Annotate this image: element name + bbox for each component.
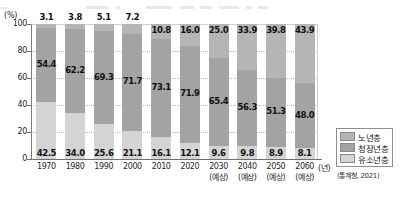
bar-2040: 33.956.39.8: [237, 24, 257, 159]
y-tick-0: 0: [3, 154, 27, 163]
bar-segment-work: 48.0: [295, 83, 315, 148]
bar-segment-old: 39.8: [266, 24, 286, 78]
bar-segment-work: 56.3: [237, 70, 257, 146]
y-tick-100: 100: [3, 19, 27, 28]
bar-value-label: 71.7: [123, 77, 142, 86]
bar-2000: 7.271.721.1: [122, 24, 142, 159]
bar-2030: 25.065.49.6: [209, 24, 229, 159]
bar-segment-old: 16.0: [180, 24, 200, 46]
legend-item-1: 청장년층: [340, 142, 388, 153]
bar-segment-young: 8.1: [295, 148, 315, 159]
bar-segment-old: 7.2: [122, 24, 142, 34]
bar-value-label: 33.9: [238, 26, 257, 35]
bar-value-label: 3.8: [68, 13, 82, 22]
bar-value-label: 21.1: [123, 149, 142, 158]
bar-value-label: 73.1: [151, 83, 170, 92]
bar-value-label: 43.9: [295, 26, 314, 35]
bar-value-label: 3.1: [39, 13, 53, 22]
bar-2050: 39.851.38.9: [266, 24, 286, 159]
source-note: (통계청, 2021): [337, 170, 379, 180]
bar-value-label: 9.8: [240, 149, 254, 158]
bar-value-label: 39.8: [266, 26, 285, 35]
stacked-bars: 3.154.442.53.862.234.05.169.325.67.271.7…: [31, 24, 318, 159]
x-label-note: (예상): [287, 173, 323, 184]
bar-value-label: 62.2: [65, 66, 84, 75]
legend-swatch-2: [340, 154, 355, 163]
bar-value-label: 16.1: [151, 149, 170, 158]
bar-value-label: 34.0: [65, 149, 84, 158]
bar-segment-young: 8.9: [266, 147, 286, 159]
bar-segment-work: 71.9: [180, 46, 200, 143]
bar-segment-young: 9.6: [209, 146, 229, 159]
bar-segment-work: 51.3: [266, 78, 286, 147]
bar-segment-work: 73.1: [151, 39, 171, 138]
legend-item-0: 노년층: [340, 131, 388, 142]
bar-segment-work: 71.7: [122, 34, 142, 131]
bar-2010: 10.873.116.1: [151, 24, 171, 159]
bar-value-label: 16.0: [180, 26, 199, 35]
bar-segment-young: 42.5: [36, 102, 56, 159]
bar-value-label: 8.9: [269, 149, 283, 158]
bar-1970: 3.154.442.5: [36, 24, 56, 159]
bar-value-label: 69.3: [94, 73, 113, 82]
bar-value-label: 56.3: [238, 103, 257, 112]
bar-segment-young: 9.8: [237, 146, 257, 159]
x-axis-unit-label: (년): [318, 162, 330, 173]
bar-segment-old: 43.9: [295, 24, 315, 83]
bar-value-label: 54.4: [37, 60, 56, 69]
y-tick-40: 40: [3, 100, 27, 109]
bar-value-label: 9.6: [212, 149, 226, 158]
y-axis-tick-labels: 100806040200: [0, 0, 27, 200]
bar-segment-young: 34.0: [65, 113, 85, 159]
x-axis-line: [27, 159, 322, 160]
legend-label-2: 유소년층: [358, 153, 388, 165]
bar-value-label: 25.0: [209, 26, 228, 35]
legend-item-2: 유소년층: [340, 153, 388, 164]
bar-segment-young: 16.1: [151, 137, 171, 159]
bar-1980: 3.862.234.0: [65, 24, 85, 159]
y-tick-60: 60: [3, 73, 27, 82]
y-tick-20: 20: [3, 127, 27, 136]
legend-swatch-0: [340, 132, 355, 141]
bar-value-label: 51.3: [266, 107, 285, 116]
bar-value-label: 48.0: [295, 111, 314, 120]
bar-segment-old: 5.1: [94, 24, 114, 31]
bar-value-label: 12.1: [180, 149, 199, 158]
bar-segment-work: 65.4: [209, 58, 229, 146]
bar-segment-work: 62.2: [65, 29, 85, 113]
bar-segment-work: 69.3: [94, 31, 114, 125]
bar-segment-work: 54.4: [36, 28, 56, 101]
bar-segment-old: 33.9: [237, 24, 257, 70]
bar-segment-old: 25.0: [209, 24, 229, 58]
bar-value-label: 7.2: [126, 13, 140, 22]
bar-value-label: 71.9: [180, 89, 199, 98]
bar-value-label: 8.1: [298, 149, 312, 158]
bar-value-label: 25.6: [94, 149, 113, 158]
bar-value-label: 65.4: [209, 97, 228, 106]
bar-value-label: 42.5: [37, 149, 56, 158]
population-age-structure-chart: (%) 100806040200 3.154.442.53.862.234.05…: [0, 0, 408, 200]
y-tick-80: 80: [3, 46, 27, 55]
bar-segment-young: 25.6: [94, 124, 114, 159]
bar-segment-old: 10.8: [151, 24, 171, 39]
bar-value-label: 5.1: [97, 13, 111, 22]
bar-1990: 5.169.325.6: [94, 24, 114, 159]
bar-segment-young: 21.1: [122, 131, 142, 159]
legend: 노년층청장년층유소년층: [336, 128, 393, 167]
bar-2020: 16.071.912.1: [180, 24, 200, 159]
bar-value-label: 10.8: [151, 26, 170, 35]
bar-2060: 43.948.08.1: [295, 24, 315, 159]
x-axis-labels: 1970198019902000201020202030(예상)2040(예상)…: [31, 162, 318, 196]
legend-swatch-1: [340, 143, 355, 152]
bar-segment-young: 12.1: [180, 143, 200, 159]
